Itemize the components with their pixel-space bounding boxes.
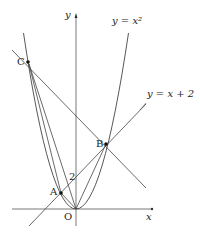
label-leader bbox=[140, 103, 146, 110]
x-axis-label: x bbox=[146, 212, 152, 222]
point-b bbox=[104, 142, 108, 146]
y-axis-arrow-icon bbox=[75, 13, 78, 18]
y-axis-label: y bbox=[65, 10, 71, 20]
point-c-label: C bbox=[17, 57, 25, 67]
x-axis-arrow-icon bbox=[151, 208, 153, 210]
line-cb bbox=[12, 50, 146, 188]
origin-label: O bbox=[64, 212, 72, 222]
point-a-label: A bbox=[50, 187, 57, 197]
segment-ca bbox=[29, 64, 61, 193]
diagram-canvas bbox=[0, 0, 200, 243]
point-a bbox=[59, 191, 63, 195]
line-label: y = x + 2 bbox=[147, 89, 194, 99]
y-intercept-label: 2 bbox=[69, 172, 75, 182]
parabola-label: y = x² bbox=[112, 16, 142, 26]
point-b-label: B bbox=[96, 139, 103, 149]
line-y-x-plus-2 bbox=[29, 104, 146, 226]
segment-ob bbox=[76, 144, 106, 209]
diagram: y x O y = x² y = x + 2 A B C 2 bbox=[0, 0, 200, 243]
point-c bbox=[26, 60, 30, 64]
